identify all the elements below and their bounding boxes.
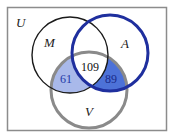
set-m-label: M xyxy=(43,35,56,50)
venn-svg: U M A V 109 61 89 xyxy=(0,0,173,138)
venn-diagram: U M A V 109 61 89 xyxy=(0,0,173,138)
region-mav-value: 109 xyxy=(81,60,99,74)
region-mv-value: 61 xyxy=(60,72,72,86)
universe-label: U xyxy=(16,15,27,30)
region-av-value: 89 xyxy=(105,72,117,86)
set-a-label: A xyxy=(120,36,129,51)
